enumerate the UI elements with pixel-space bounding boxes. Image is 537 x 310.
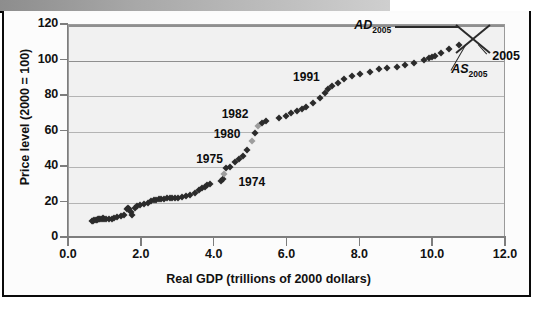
y-tick-120 [60, 23, 68, 25]
y-tick-label-40: 40 [24, 158, 58, 172]
gridline-60 [69, 132, 504, 133]
x-tick-10.0 [431, 238, 433, 246]
data-point [383, 65, 390, 72]
data-point [316, 95, 323, 102]
data-point [240, 152, 247, 159]
x-tick-label-12.0: 12.0 [480, 247, 530, 261]
data-point [129, 211, 136, 218]
x-tick-6.0 [286, 238, 288, 246]
ad-label-subscript: 2005 [372, 25, 391, 35]
x-tick-label-10.0: 10.0 [407, 247, 457, 261]
plot-area: AD2005AS20052005 [68, 24, 505, 237]
ad-leader-line [395, 26, 459, 27]
gridline-80 [69, 96, 504, 97]
year-label-1975: 1975 [196, 152, 223, 166]
figure-root: Price level (2000 = 100) 020406080100120… [0, 0, 537, 310]
y-tick-60 [60, 130, 68, 132]
x-tick-label-6.0: 6.0 [262, 247, 312, 261]
data-point [402, 62, 409, 69]
gridline-100 [69, 61, 504, 63]
as-curve-label: AS2005 [451, 62, 487, 79]
as-label-subscript: 2005 [469, 69, 488, 79]
data-point [252, 129, 259, 136]
ad-label-text: AD [354, 18, 372, 32]
y-tick-80 [60, 94, 68, 96]
year-label-1982: 1982 [222, 107, 249, 121]
y-tick-label-0: 0 [24, 229, 58, 243]
x-tick-label-0.0: 0.0 [43, 247, 93, 261]
x-tick-label-8.0: 8.0 [334, 247, 384, 261]
x-tick-12.0 [504, 238, 506, 246]
data-point [446, 46, 453, 53]
data-point [366, 68, 373, 75]
y-tick-label-80: 80 [24, 87, 58, 101]
year-label-1991: 1991 [293, 70, 320, 84]
y-tick-label-60: 60 [24, 123, 58, 137]
year-label-1980: 1980 [214, 127, 241, 141]
x-tick-label-2.0: 2.0 [116, 247, 166, 261]
x-tick-8.0 [359, 238, 361, 246]
x-tick-0.0 [67, 238, 69, 246]
header-bar-gap [390, 0, 537, 9]
data-point [349, 73, 356, 80]
y-tick-label-100: 100 [24, 52, 58, 66]
equilibrium-year-label: 2005 [492, 49, 520, 63]
y-tick-label-120: 120 [24, 16, 58, 30]
data-point [357, 70, 364, 77]
data-point [375, 66, 382, 73]
data-point [248, 138, 255, 145]
y-tick-20 [60, 201, 68, 203]
data-point [243, 146, 250, 153]
data-point [393, 63, 400, 70]
x-axis-title: Real GDP (trillions of 2000 dollars) [0, 272, 537, 286]
y-tick-label-20: 20 [24, 194, 58, 208]
y-tick-100 [60, 59, 68, 61]
data-point [263, 117, 270, 124]
x-tick-2.0 [140, 238, 142, 246]
y-tick-40 [60, 165, 68, 167]
data-point [341, 75, 348, 82]
data-point [438, 50, 445, 57]
ad-curve-label: AD2005 [354, 18, 391, 35]
data-point [309, 100, 316, 107]
as-label-text: AS [451, 62, 468, 76]
year-label-1974: 1974 [238, 175, 265, 189]
x-tick-4.0 [213, 238, 215, 246]
gridline-40 [69, 167, 504, 168]
x-tick-label-4.0: 4.0 [189, 247, 239, 261]
